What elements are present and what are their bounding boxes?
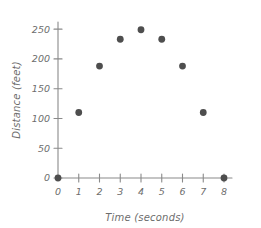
y-tick-label: 0: [44, 172, 50, 183]
data-point: [96, 63, 103, 70]
x-tick-label: 4: [138, 186, 144, 197]
x-tick-label: 0: [55, 186, 61, 197]
x-tick-label: 1: [76, 186, 82, 197]
y-tick-label: 200: [32, 53, 50, 64]
data-points: [55, 26, 228, 181]
data-point: [117, 36, 124, 43]
y-tick-label: 250: [32, 24, 50, 35]
y-tick-label: 50: [38, 143, 50, 154]
data-point: [75, 109, 82, 116]
plot-canvas: 050100150200250 012345678 Time (seconds)…: [0, 0, 261, 228]
data-point: [200, 109, 207, 116]
y-tick-label: 100: [32, 113, 50, 124]
data-point: [179, 63, 186, 70]
data-point: [55, 175, 62, 182]
x-tick-label: 5: [159, 186, 165, 197]
data-point: [138, 26, 145, 33]
y-axis-title: Distance (feet): [11, 61, 22, 138]
x-tick-label: 7: [200, 186, 206, 197]
x-tick-label: 2: [96, 186, 102, 197]
data-point: [221, 175, 228, 182]
y-tick-label: 150: [32, 83, 50, 94]
scatter-plot-figure: 050100150200250 012345678 Time (seconds)…: [0, 0, 261, 228]
axes: [58, 22, 232, 178]
x-tick-label: 6: [179, 186, 185, 197]
x-tick-label: 8: [221, 186, 227, 197]
data-point: [158, 36, 165, 43]
x-axis-title: Time (seconds): [105, 212, 184, 223]
x-tick-label: 3: [117, 186, 123, 197]
